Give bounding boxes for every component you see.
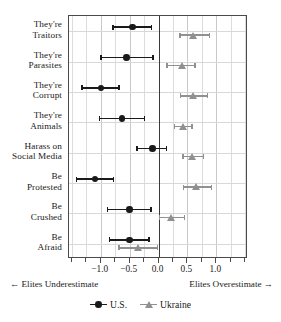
confidence-interval-cap — [112, 25, 114, 30]
y-axis-label-line-1: They're — [0, 19, 62, 30]
confidence-interval-cap — [209, 33, 211, 38]
x-axis-tick-minor — [114, 258, 115, 262]
grid-line-vertical — [187, 16, 188, 257]
x-axis-tick-label-0: −1.0 — [85, 263, 115, 275]
grid-line-vertical-minor — [173, 16, 174, 257]
grid-line-horizontal — [69, 213, 246, 214]
confidence-interval-cap — [99, 116, 101, 121]
x-axis-tick-major — [158, 258, 159, 263]
x-axis-tick-labels: −1.0−0.50.00.51.0 — [68, 263, 247, 277]
legend-label: Ukraine — [160, 299, 191, 310]
grid-line-horizontal — [69, 153, 246, 154]
confidence-interval-cap — [136, 146, 138, 151]
x-axis-tick-minor — [244, 258, 245, 262]
y-axis-label-5: BeProtested — [0, 171, 62, 192]
x-axis-tick-label-2: 0.0 — [143, 263, 173, 275]
legend-entry-ukraine[interactable]: Ukraine — [140, 299, 191, 310]
confidence-interval-cap — [166, 146, 168, 151]
legend-circle-marker-icon — [90, 301, 107, 309]
coefficient-plot-figure: They'reTraitorsThey'reParasitesThey'reCo… — [0, 0, 281, 322]
confidence-interval-cap — [109, 237, 111, 242]
zero-reference-line — [159, 16, 160, 257]
x-axis-tick-minor — [172, 258, 173, 262]
y-axis-label-6: BeCrushed — [0, 201, 62, 222]
y-axis-label-line-2: Traitors — [0, 30, 62, 41]
confidence-interval-cap — [211, 185, 213, 190]
x-axis-tick-label-3: 0.5 — [171, 263, 201, 275]
y-axis-label-line-1: Be — [0, 201, 62, 212]
data-point-marker-circle — [92, 176, 99, 183]
y-axis-label-1: They'reParasites — [0, 50, 62, 71]
confidence-interval-cap — [159, 215, 161, 220]
confidence-interval-cap — [203, 154, 205, 159]
grid-line-vertical-minor — [72, 16, 73, 257]
confidence-interval-cap — [151, 25, 153, 30]
x-axis-tick-minor — [85, 258, 86, 262]
grid-line-horizontal — [69, 62, 246, 63]
y-axis-label-line-1: Be — [0, 232, 62, 243]
grid-line-horizontal — [69, 122, 246, 123]
y-axis-label-line-1: Harass on — [0, 141, 62, 152]
grid-line-horizontal — [69, 183, 246, 184]
data-point-marker-triangle — [189, 92, 197, 99]
x-axis-tick-label-4: 1.0 — [200, 263, 230, 275]
data-point-marker-triangle — [188, 153, 196, 160]
confidence-interval-cap — [118, 245, 120, 250]
chart-legend: U.S.Ukraine — [0, 299, 281, 310]
data-point-marker-triangle — [167, 214, 175, 221]
grid-line-vertical-minor — [202, 16, 203, 257]
y-axis-label-line-1: They're — [0, 50, 62, 61]
grid-line-vertical-minor — [86, 16, 87, 257]
confidence-interval-cap — [81, 85, 83, 90]
y-axis-category-labels: They'reTraitorsThey'reParasitesThey'reCo… — [0, 0, 66, 258]
y-axis-label-line-2: Social Media — [0, 151, 62, 162]
confidence-interval-cap — [144, 116, 146, 121]
confidence-interval-cap — [191, 124, 193, 129]
data-point-marker-triangle — [189, 32, 197, 39]
confidence-interval-cap — [76, 177, 78, 182]
data-point-marker-circle — [126, 237, 133, 244]
grid-line-vertical — [101, 16, 102, 257]
confidence-interval-cap — [180, 93, 182, 98]
y-axis-label-line-2: Parasites — [0, 60, 62, 71]
confidence-interval-cap — [207, 93, 209, 98]
confidence-interval-cap — [148, 237, 150, 242]
x-axis-tick-major — [129, 258, 130, 263]
confidence-interval-cap — [183, 185, 185, 190]
x-axis-tick-major — [215, 258, 216, 263]
y-axis-label-4: Harass onSocial Media — [0, 141, 62, 162]
confidence-interval-cap — [179, 33, 181, 38]
data-point-marker-triangle — [192, 183, 200, 190]
x-axis-tick-minor — [143, 258, 144, 262]
x-axis-tick-minor — [230, 258, 231, 262]
data-point-marker-triangle — [134, 244, 142, 251]
confidence-interval-cap — [157, 245, 159, 250]
confidence-interval-cap — [166, 63, 168, 68]
y-axis-label-line-1: Be — [0, 171, 62, 182]
data-point-marker-circle — [149, 145, 156, 152]
grid-line-vertical-minor — [144, 16, 145, 257]
confidence-interval-cap — [152, 55, 154, 60]
grid-line-vertical-minor — [245, 16, 246, 257]
data-point-marker-circle — [119, 115, 126, 122]
data-point-marker-circle — [123, 54, 130, 61]
grid-line-horizontal — [69, 31, 246, 32]
grid-line-vertical-minor — [231, 16, 232, 257]
x-axis-tick-major — [100, 258, 101, 263]
legend-entry-us[interactable]: U.S. — [90, 299, 127, 310]
confidence-interval-cap — [194, 63, 196, 68]
grid-line-vertical-minor — [115, 16, 116, 257]
x-axis-tick-minor — [201, 258, 202, 262]
confidence-interval-cap — [113, 177, 115, 182]
x-axis-tick-major — [186, 258, 187, 263]
x-axis-tick-minor — [71, 258, 72, 262]
x-axis-tick-label-1: −0.5 — [114, 263, 144, 275]
grid-line-vertical — [130, 16, 131, 257]
data-point-marker-circle — [98, 85, 105, 92]
grid-line-vertical — [216, 16, 217, 257]
y-axis-label-line-1: They're — [0, 80, 62, 91]
y-axis-label-line-2: Afraid — [0, 242, 62, 253]
y-axis-label-line-2: Crushed — [0, 212, 62, 223]
grid-line-horizontal — [69, 92, 246, 93]
y-axis-label-7: BeAfraid — [0, 232, 62, 253]
